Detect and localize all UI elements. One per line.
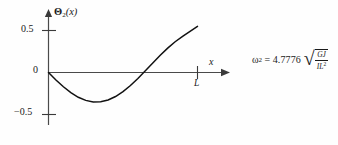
denominator-exponent: 2 bbox=[324, 61, 327, 67]
radicand-fraction: GJ IL2 bbox=[315, 49, 328, 71]
x-axis-arrowhead bbox=[221, 69, 230, 76]
plot-canvas bbox=[0, 0, 338, 145]
omega-symbol: ω bbox=[252, 55, 259, 65]
y-axis-arrowhead bbox=[45, 9, 52, 17]
x-tick-label-L: L bbox=[194, 79, 199, 89]
radical-sign: √ bbox=[304, 50, 315, 72]
square-root-group: √ GJ IL2 bbox=[304, 49, 328, 71]
y-axis-title-symbol: Θ bbox=[54, 6, 62, 17]
omega-subscript: 2 bbox=[259, 57, 263, 64]
y-axis-title-argument: (x) bbox=[66, 6, 78, 17]
y-tick-label-0.5: 0.5 bbox=[21, 24, 34, 34]
fraction-numerator: GJ bbox=[315, 51, 328, 59]
denominator-base: IL bbox=[317, 62, 324, 71]
torsional-mode-shape-figure: Θ2(x) 0.5 0 −0.5 x L ω2 = 4.7776 √ GJ IL… bbox=[0, 0, 338, 145]
equals-sign: = bbox=[265, 55, 271, 65]
mode-shape-curve bbox=[49, 26, 198, 102]
fraction-denominator: IL2 bbox=[315, 60, 328, 71]
y-tick-label-0: 0 bbox=[33, 65, 38, 75]
x-axis-label: x bbox=[209, 57, 213, 67]
y-tick-label-neg0.5: −0.5 bbox=[14, 107, 32, 117]
y-axis-title: Θ2(x) bbox=[54, 7, 77, 19]
equation-coefficient: 4.7776 bbox=[273, 55, 301, 65]
frequency-equation: ω2 = 4.7776 √ GJ IL2 bbox=[252, 49, 328, 71]
